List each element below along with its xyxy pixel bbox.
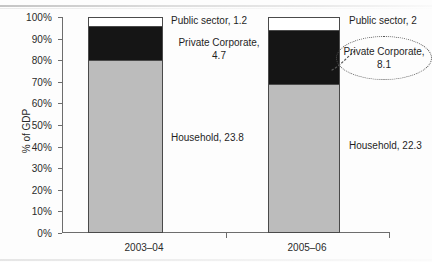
- y-tick-80: 80%: [58, 60, 62, 61]
- annotation-public-sector-2005-06: Public sector, 2: [349, 14, 417, 27]
- y-tick-20: 20%: [58, 190, 62, 191]
- y-tick-label-100: 100%: [26, 12, 52, 23]
- annotation-public-sector-2003-04: Public sector, 1.2: [171, 14, 247, 27]
- bar-segment-household-2005-06[interactable]: [269, 85, 339, 232]
- chart-figure: % of GDP 100% 90% 80% 70% 60% 50% 40% 30…: [0, 0, 432, 262]
- y-tick-30: 30%: [58, 168, 62, 169]
- bar-2003-04[interactable]: [88, 17, 163, 233]
- scan-artifact-bottom: [0, 259, 432, 261]
- x-tick-label-2005-06: 2005–06: [288, 242, 327, 253]
- bar-divider-household-private-2005-06: [269, 84, 339, 85]
- bar-segment-private-corporate-2005-06[interactable]: [269, 31, 339, 85]
- y-tick-label-40: 40%: [32, 141, 52, 152]
- y-tick-label-0: 0%: [37, 228, 52, 239]
- annotation-private-corporate-2005-06-callout: Private Corporate, 8.1: [336, 36, 432, 80]
- y-tick-40: 40%: [58, 147, 62, 148]
- y-tick-label-90: 90%: [32, 33, 52, 44]
- y-tick-label-30: 30%: [32, 163, 52, 174]
- bar-divider-household-private-2003-04: [89, 60, 162, 61]
- bar-divider-private-public-2005-06: [269, 30, 339, 31]
- x-tick-label-2003-04: 2003–04: [125, 242, 164, 253]
- x-tick-separator: [226, 233, 227, 238]
- bar-segment-private-corporate-2003-04[interactable]: [89, 27, 162, 61]
- y-tick-label-70: 70%: [32, 76, 52, 87]
- annotation-household-2005-06: Household, 22.3: [349, 139, 422, 152]
- y-tick-label-80: 80%: [32, 55, 52, 66]
- y-tick-label-10: 10%: [32, 206, 52, 217]
- scan-artifact-top: [0, 5, 432, 7]
- bar-segment-household-2003-04[interactable]: [89, 61, 162, 232]
- y-tick-60: 60%: [58, 103, 62, 104]
- bar-divider-private-public-2003-04: [89, 26, 162, 27]
- bar-2005-06[interactable]: [268, 17, 340, 233]
- annotation-private-corporate-2003-04: Private Corporate, 4.7: [171, 36, 267, 62]
- annotation-household-2003-04: Household, 23.8: [171, 131, 244, 144]
- y-axis-title: % of GDP: [21, 109, 32, 153]
- x-tick-end: [389, 233, 390, 238]
- y-tick-70: 70%: [58, 82, 62, 83]
- y-tick-10: 10%: [58, 211, 62, 212]
- y-tick-label-20: 20%: [32, 184, 52, 195]
- y-tick-0: 0%: [58, 233, 62, 234]
- y-tick-50: 50%: [58, 125, 62, 126]
- bar-segment-public-sector-2005-06[interactable]: [269, 18, 339, 31]
- scan-artifact-top-secondary: [0, 8, 432, 9]
- y-tick-100: 100%: [58, 17, 62, 18]
- y-tick-90: 90%: [58, 39, 62, 40]
- y-axis-line: [62, 17, 63, 233]
- y-tick-label-60: 60%: [32, 98, 52, 109]
- y-tick-label-50: 50%: [32, 120, 52, 131]
